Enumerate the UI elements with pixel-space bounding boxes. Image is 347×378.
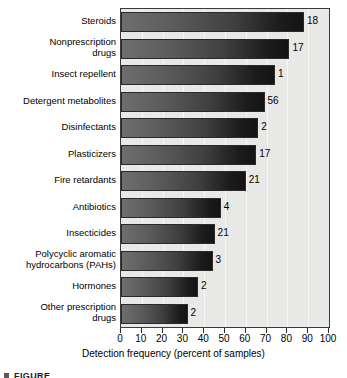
bar-annotation: 2 <box>261 122 267 132</box>
figure-marker <box>4 373 9 378</box>
category-label-line: Antibiotics <box>0 202 116 213</box>
bar-value-annotations: 181715621721421322 <box>120 8 347 328</box>
bar-annotation: 2 <box>201 281 207 291</box>
category-label-line: hydrocarbons (PAHs) <box>0 260 116 271</box>
category-label: Antibiotics <box>0 202 116 213</box>
bar-annotation: 17 <box>292 43 303 53</box>
category-label-line: Fire retardants <box>0 175 116 186</box>
category-label: Detergent metabolites <box>0 96 116 107</box>
category-label: Insect repellent <box>0 69 116 80</box>
category-label: Plasticizers <box>0 149 116 160</box>
bar-annotation: 18 <box>307 16 318 26</box>
category-label: Insecticides <box>0 228 116 239</box>
category-label-line: Disinfectants <box>0 122 116 133</box>
category-label-line: Insect repellent <box>0 69 116 80</box>
category-label: Hormones <box>0 281 116 292</box>
category-label: Disinfectants <box>0 122 116 133</box>
category-label-line: drugs <box>0 313 116 324</box>
bar-annotation: 56 <box>268 96 279 106</box>
category-label: Polycyclic aromatichydrocarbons (PAHs) <box>0 249 116 270</box>
bar-annotation: 2 <box>191 308 197 318</box>
category-label: Fire retardants <box>0 175 116 186</box>
category-label-line: drugs <box>0 48 116 59</box>
category-label-line: Detergent metabolites <box>0 96 116 107</box>
category-label-line: Steroids <box>0 16 116 27</box>
category-label-line: Hormones <box>0 281 116 292</box>
bar-chart: SteroidsNonprescriptiondrugsInsect repel… <box>0 0 347 378</box>
bar-annotation: 3 <box>216 255 222 265</box>
bar-annotation: 21 <box>218 228 229 238</box>
bar-annotation: 21 <box>249 175 260 185</box>
x-axis-tick-labels: 0102030405060708090100 <box>0 333 347 347</box>
category-axis-labels: SteroidsNonprescriptiondrugsInsect repel… <box>0 8 116 328</box>
category-label: Other prescriptiondrugs <box>0 302 116 323</box>
category-label: Nonprescriptiondrugs <box>0 37 116 58</box>
category-label-line: Plasticizers <box>0 149 116 160</box>
x-axis-title: Detection frequency (percent of samples) <box>0 348 347 359</box>
category-label-line: Insecticides <box>0 228 116 239</box>
bar-annotation: 17 <box>259 149 270 159</box>
bar-annotation: 4 <box>224 202 230 212</box>
figure-caption: FIGURE <box>14 371 50 378</box>
category-label: Steroids <box>0 16 116 27</box>
x-tick-label: 100 <box>313 333 343 345</box>
bar-annotation: 1 <box>278 69 284 79</box>
